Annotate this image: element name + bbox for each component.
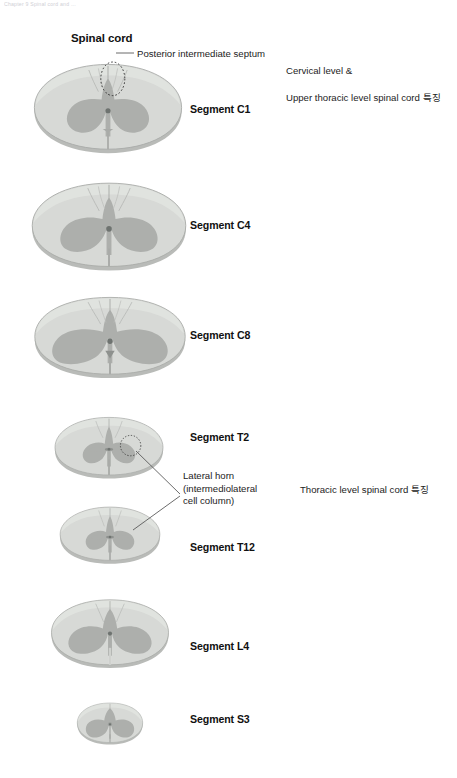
segment-label-t12: Segment T12 xyxy=(190,541,255,553)
callout-lateral-horn: Lateral horn (intermediolateral cell col… xyxy=(183,470,257,508)
callout-lateral-horn-line2: (intermediolateral xyxy=(183,483,257,496)
cord-section-l4 xyxy=(42,592,178,670)
central-canal-s3 xyxy=(109,723,111,725)
cord-section-c8 xyxy=(24,288,196,382)
callout-lateral-horn-line1: Lateral horn xyxy=(183,470,257,483)
segment-label-c8: Segment C8 xyxy=(190,329,250,341)
cord-section-c4 xyxy=(26,175,192,273)
figure-page: Chapter 9 Spinal cord and ... Spinal cor… xyxy=(0,0,457,778)
cord-section-c1 xyxy=(28,56,188,156)
segment-label-c4: Segment C4 xyxy=(190,219,250,231)
segment-label-c1: Segment C1 xyxy=(190,103,250,115)
side-note-cervical-line1: Cervical level & xyxy=(286,64,441,78)
central-canal-c4 xyxy=(106,226,112,232)
running-header: Chapter 9 Spinal cord and ... xyxy=(4,1,76,7)
cord-section-t12 xyxy=(47,498,173,566)
cord-section-t2 xyxy=(42,409,176,481)
side-note-cervical: Cervical level & Upper thoracic level sp… xyxy=(286,50,441,118)
side-note-thoracic-line1: Thoracic level spinal cord 특징 xyxy=(300,483,429,497)
segment-label-t2: Segment T2 xyxy=(190,431,249,443)
central-canal-t2 xyxy=(108,448,111,451)
central-canal-t12 xyxy=(109,536,111,538)
callout-lateral-horn-line3: cell column) xyxy=(183,495,257,508)
side-note-thoracic: Thoracic level spinal cord 특징 xyxy=(300,469,429,510)
central-canal-l4 xyxy=(108,632,112,636)
segment-label-s3: Segment S3 xyxy=(190,713,250,725)
central-canal-c8 xyxy=(107,339,112,344)
cord-section-s3 xyxy=(72,694,148,750)
central-canal-c1 xyxy=(105,108,110,113)
page-title: Spinal cord xyxy=(71,32,133,44)
side-note-cervical-line2: Upper thoracic level spinal cord 특징 xyxy=(286,91,441,105)
segment-label-l4: Segment L4 xyxy=(190,640,249,652)
